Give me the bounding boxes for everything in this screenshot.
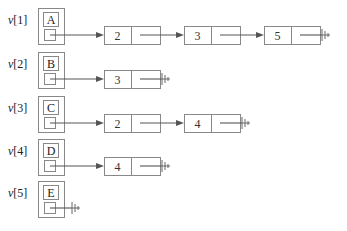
adjacency-row-c: v[3]C24 — [8, 97, 250, 133]
list-node: 3 — [185, 27, 265, 45]
list-node-value: 3 — [195, 29, 201, 43]
list-node: 4 — [105, 158, 171, 176]
list-node-value: 5 — [275, 29, 281, 43]
vertex-name: B — [47, 57, 55, 71]
list-node-value: 4 — [195, 117, 201, 131]
vertex-index-label: v[4] — [8, 144, 27, 158]
adjacency-row-e: v[5]E — [8, 182, 80, 218]
list-node-value: 4 — [115, 160, 121, 174]
vertex-index-label: v[1] — [8, 13, 27, 27]
list-node: 2 — [105, 115, 185, 133]
vertex-name: D — [47, 144, 56, 158]
vertex-name: C — [47, 101, 55, 115]
list-node-value: 2 — [115, 117, 121, 131]
adjacency-row-a: v[1]A235 — [8, 9, 330, 45]
list-node: 4 — [185, 115, 251, 133]
list-node-value: 2 — [115, 29, 121, 43]
adjacency-list-diagram: v[1]A235v[2]B3v[3]C24v[4]D4v[5]E — [0, 0, 347, 231]
list-node-value: 3 — [115, 73, 121, 87]
vertex-index-label: v[2] — [8, 57, 27, 71]
vertex-index-label: v[3] — [8, 101, 27, 115]
adjacency-row-d: v[4]D4 — [8, 140, 170, 176]
list-node: 2 — [105, 27, 185, 45]
vertex-index-label: v[5] — [8, 186, 27, 200]
adjacency-row-b: v[2]B3 — [8, 53, 170, 89]
vertex-name: E — [47, 186, 54, 200]
list-node: 3 — [105, 71, 171, 89]
vertex-name: A — [47, 13, 56, 27]
list-node: 5 — [265, 27, 331, 45]
